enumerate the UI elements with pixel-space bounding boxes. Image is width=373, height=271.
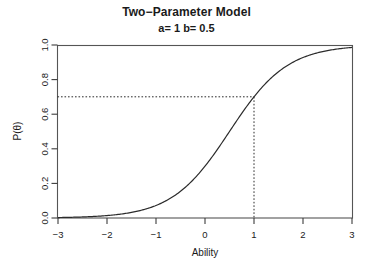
plot-box-frame — [58, 46, 353, 219]
y-axis-ticks — [52, 45, 58, 218]
y-tick-label-0: 0.0 — [39, 211, 50, 224]
y-tick-label-1: 0.2 — [39, 177, 50, 190]
y-axis-tick-labels: 0.0 0.2 0.4 0.6 0.8 1.0 — [39, 38, 50, 224]
y-tick-label-3: 0.6 — [39, 108, 50, 121]
x-tick-label-6: 3 — [349, 229, 354, 240]
chart-container: Two−Parameter Model a= 1 b= 0.5 0.0 0.2 … — [0, 0, 373, 271]
x-tick-label-4: 1 — [251, 229, 256, 240]
x-tick-label-3: 0 — [202, 229, 207, 240]
x-tick-label-2: −1 — [151, 229, 162, 240]
y-tick-label-2: 0.4 — [39, 142, 50, 155]
x-axis-tick-labels: −3 −2 −1 0 1 2 3 — [53, 229, 355, 240]
x-tick-label-1: −2 — [102, 229, 113, 240]
x-tick-label-5: 2 — [300, 229, 305, 240]
x-axis-title: Ability — [192, 247, 219, 258]
y-axis-title: P(θ) — [12, 122, 23, 141]
chart-plot-svg: 0.0 0.2 0.4 0.6 0.8 1.0 P(θ) −3 −2 −1 0 … — [0, 0, 373, 271]
icc-curve-path — [58, 47, 352, 217]
x-tick-label-0: −3 — [53, 229, 64, 240]
x-axis-ticks — [58, 218, 352, 224]
y-tick-label-5: 1.0 — [39, 38, 50, 51]
y-tick-label-4: 0.8 — [39, 73, 50, 86]
